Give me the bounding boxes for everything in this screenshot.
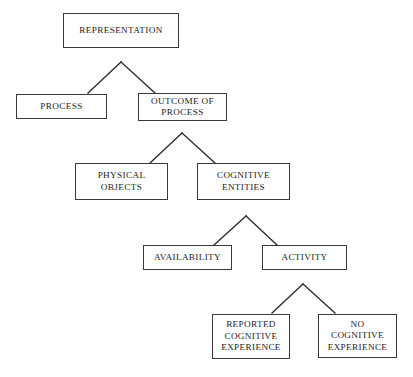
node-label-cognitive-entities: COGNITIVE ENTITIES	[217, 170, 270, 193]
connector-activity-split-left	[272, 284, 303, 313]
node-label-activity: ACTIVITY	[281, 252, 327, 263]
connector-activity-split-right	[303, 284, 335, 313]
node-activity: ACTIVITY	[262, 245, 347, 270]
connector-representation-split-right	[121, 62, 155, 93]
node-label-physical-objects: PHYSICAL OBJECTS	[98, 170, 146, 193]
node-no-cognitive-experience: NO COGNITIVE EXPERIENCE	[318, 314, 397, 358]
node-label-reported-cognitive-experience: REPORTED COGNITIVE EXPERIENCE	[221, 319, 281, 353]
node-label-representation: REPRESENTATION	[79, 25, 162, 36]
node-label-process: PROCESS	[40, 101, 82, 112]
connector-outcome-split-left	[150, 133, 182, 163]
node-process: PROCESS	[16, 94, 107, 119]
node-cognitive-entities: COGNITIVE ENTITIES	[197, 163, 290, 200]
node-label-availability: AVAILABILITY	[154, 252, 221, 263]
node-label-outcome-of-process: OUTCOME OF PROCESS	[151, 96, 214, 119]
connector-outcome-split-right	[182, 133, 215, 163]
node-reported-cognitive-experience: REPORTED COGNITIVE EXPERIENCE	[212, 314, 290, 359]
diagram-canvas: REPRESENTATIONPROCESSOUTCOME OF PROCESSP…	[0, 0, 413, 377]
connector-representation-split-left	[88, 62, 121, 93]
connector-cognitive-entities-split-left	[214, 216, 246, 245]
node-physical-objects: PHYSICAL OBJECTS	[75, 163, 168, 200]
node-representation: REPRESENTATION	[63, 13, 179, 48]
connector-cognitive-entities-split-right	[246, 216, 277, 245]
node-availability: AVAILABILITY	[143, 245, 232, 270]
node-label-no-cognitive-experience: NO COGNITIVE EXPERIENCE	[328, 319, 388, 353]
node-outcome-of-process: OUTCOME OF PROCESS	[138, 93, 227, 121]
